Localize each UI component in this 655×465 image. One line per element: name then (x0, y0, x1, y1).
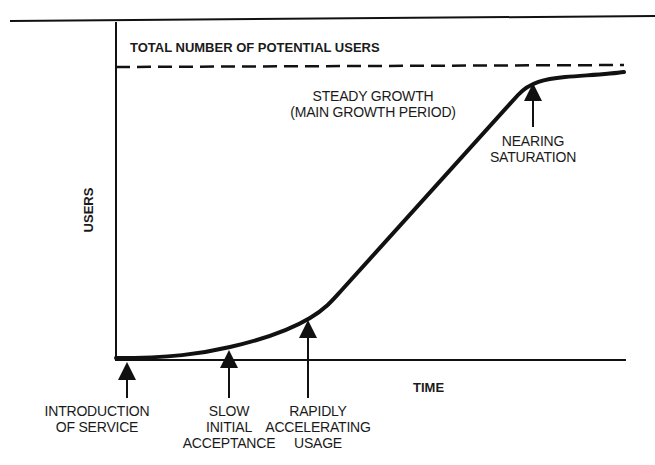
rapidly-line1: RAPIDLY (253, 403, 383, 419)
adoption-curve-diagram (0, 0, 655, 465)
nearing-saturation-line1: NEARING (483, 133, 583, 149)
nearing-saturation-label: NEARING SATURATION (483, 133, 583, 165)
potential-users-label: TOTAL NUMBER OF POTENTIAL USERS (130, 40, 380, 56)
x-axis-label: TIME (413, 380, 444, 396)
rapidly-line2: ACCELERATING (253, 419, 383, 435)
introduction-line1: INTRODUCTION (32, 403, 162, 419)
top-border-line (10, 16, 655, 21)
arrow-slow-acceptance-icon (220, 350, 238, 398)
rapidly-accelerating-usage-label: RAPIDLY ACCELERATING USAGE (253, 403, 383, 451)
steady-growth-label: STEADY GROWTH (MAIN GROWTH PERIOD) (268, 88, 478, 120)
potential-users-dashed-line (116, 65, 624, 67)
y-axis-label: USERS (81, 188, 97, 233)
introduction-of-service-label: INTRODUCTION OF SERVICE (32, 403, 162, 435)
introduction-line2: OF SERVICE (32, 419, 162, 435)
nearing-saturation-line2: SATURATION (483, 149, 583, 165)
steady-growth-line1: STEADY GROWTH (268, 88, 478, 104)
rapidly-line3: USAGE (253, 435, 383, 451)
arrow-introduction-icon (118, 362, 136, 398)
steady-growth-line2: (MAIN GROWTH PERIOD) (268, 104, 478, 120)
